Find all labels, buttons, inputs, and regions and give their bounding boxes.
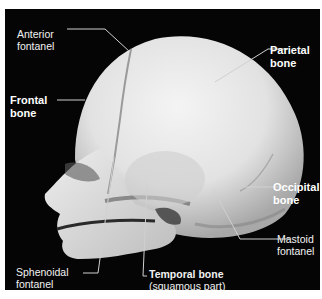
label-occipital-bone: Occipital bone: [273, 181, 319, 207]
label-sphenoidal-fontanel: Sphenoidal fontanel: [16, 266, 69, 290]
label-line: fontanel: [17, 40, 54, 52]
label-line: fontanel: [277, 245, 314, 257]
label-line: Anterior: [17, 28, 54, 40]
label-temporal-bone: Temporal bone (squamous part): [149, 268, 225, 290]
label-line: (squamous part): [149, 280, 225, 290]
temporal-squama: [125, 151, 205, 207]
leader-anterior-fontanel: [67, 29, 130, 52]
label-mastoid-fontanel: Mastoid fontanel: [277, 233, 314, 257]
label-line: Occipital: [273, 181, 319, 194]
label-line: fontanel: [16, 278, 69, 290]
label-line: Temporal bone: [149, 268, 225, 280]
label-line: Frontal: [10, 94, 47, 107]
label-line: bone: [10, 107, 47, 120]
label-line: bone: [270, 57, 310, 70]
label-line: Sphenoidal: [16, 266, 69, 278]
label-line: Parietal: [270, 44, 310, 57]
skull-photo-panel: Anterior fontanel Parietal bone Frontal …: [5, 9, 320, 290]
label-frontal-bone: Frontal bone: [10, 94, 47, 120]
label-parietal-bone: Parietal bone: [270, 44, 310, 70]
label-anterior-fontanel: Anterior fontanel: [17, 28, 54, 52]
label-line: bone: [273, 194, 319, 207]
label-line: Mastoid: [277, 233, 314, 245]
